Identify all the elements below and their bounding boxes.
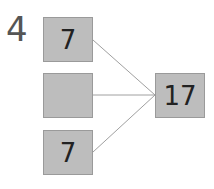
box-left-bottom: 7 [43,130,93,175]
box-right-total: 17 [155,73,205,118]
box-left-middle[interactable] [43,73,93,118]
box-left-top: 7 [43,17,93,62]
